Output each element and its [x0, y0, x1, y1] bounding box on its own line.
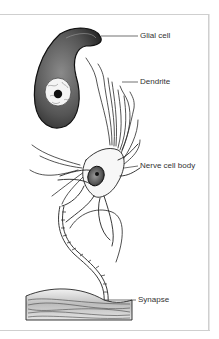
label-synapse: Synapse [138, 295, 169, 305]
label-glial-cell: Glial cell [140, 31, 170, 41]
glial-cell [34, 28, 101, 128]
muscle-fiber [26, 289, 132, 320]
label-dendrite: Dendrite [140, 77, 170, 87]
label-nerve-cell-body: Nerve cell body [140, 161, 195, 171]
